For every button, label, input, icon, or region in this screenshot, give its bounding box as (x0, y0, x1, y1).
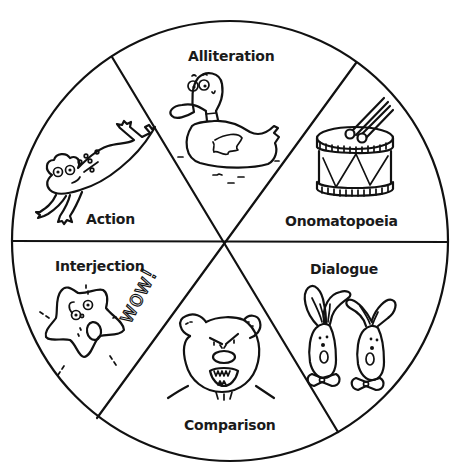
literary-devices-wheel: Alliteration Onomatopoeia (0, 0, 460, 472)
section-action: Action (36, 121, 155, 227)
label-comparison: Comparison (184, 417, 276, 433)
section-comparison: Comparison (168, 314, 276, 433)
label-onomatopoeia: Onomatopoeia (285, 213, 398, 229)
label-alliteration: Alliteration (188, 48, 274, 64)
star-icon: wow! (40, 264, 162, 375)
label-interjection: Interjection (55, 258, 145, 274)
label-action: Action (86, 211, 135, 227)
duck-icon (170, 73, 279, 183)
bear-icon (168, 314, 274, 400)
section-alliteration: Alliteration (170, 48, 279, 183)
label-dialogue: Dialogue (310, 261, 378, 277)
section-dialogue: Dialogue (305, 261, 396, 390)
drum-icon (317, 98, 393, 196)
section-onomatopoeia: Onomatopoeia (285, 98, 398, 229)
section-interjection: Interjection wow! (40, 258, 162, 375)
frog-icon (36, 121, 155, 224)
rabbits-icon (305, 286, 396, 390)
